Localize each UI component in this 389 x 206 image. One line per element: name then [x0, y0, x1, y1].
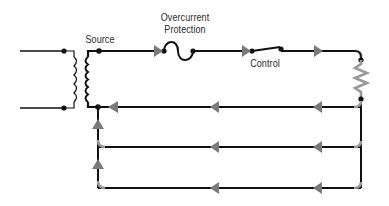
arrow-left-icon	[108, 101, 118, 113]
arrow-left-icon	[210, 182, 219, 194]
resistor-symbol	[355, 60, 367, 98]
switch-blade	[252, 47, 280, 51]
arrow-up-icon	[92, 119, 104, 129]
primary-wires	[20, 48, 74, 110]
arrow-left-icon	[313, 182, 322, 194]
arrow-right-icon	[154, 45, 163, 57]
overcurrent-protection-label: Overcurrent Protection	[152, 11, 218, 35]
arrow-left-icon	[313, 141, 322, 153]
overcurrent-label-line2: Protection	[152, 23, 218, 35]
arrow-left-icon	[313, 101, 322, 113]
transformer-primary-coil	[74, 57, 77, 102]
overcurrent-label-line1: Overcurrent	[152, 11, 218, 23]
load-branch	[355, 57, 367, 188]
arrow-right-icon	[242, 45, 251, 57]
transformer-secondary-coil	[86, 57, 89, 102]
arrow-up-icon	[92, 159, 104, 169]
arrow-left-icon	[210, 141, 219, 153]
arrow-left-icon	[210, 101, 219, 113]
control-label: Control	[240, 57, 289, 69]
arrow-right-icon	[314, 45, 323, 57]
circuit-diagram: Source Overcurrent Protection Control	[0, 0, 389, 206]
fuse-symbol	[164, 42, 193, 60]
source-label: Source	[75, 33, 124, 45]
